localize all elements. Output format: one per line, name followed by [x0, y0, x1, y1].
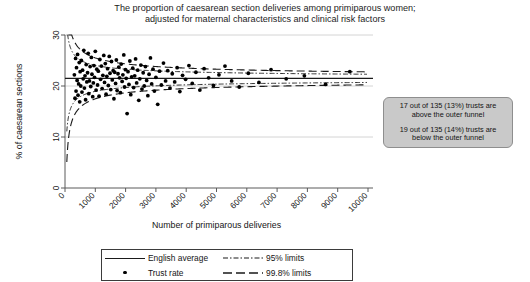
- data-point: [96, 69, 100, 73]
- data-point: [72, 73, 76, 77]
- x-tick-label-9000: 9000: [319, 190, 339, 210]
- data-point: [237, 85, 241, 89]
- data-point: [88, 65, 92, 69]
- data-point: [103, 62, 107, 66]
- data-point: [76, 93, 80, 97]
- data-point: [91, 95, 95, 99]
- data-point: [93, 49, 97, 53]
- y-axis-ticks: [61, 35, 65, 188]
- annotation-paragraph-below: 19 out of 135 (14%) trusts are below the…: [400, 126, 497, 143]
- data-point: [79, 59, 83, 63]
- legend-item-998-limits: 99.8% limits: [220, 265, 354, 280]
- data-point: [107, 55, 111, 59]
- funnel-curve-95-limits-upper: [67, 35, 367, 74]
- data-point: [324, 83, 328, 87]
- data-point: [230, 79, 234, 83]
- data-point: [132, 86, 136, 90]
- x-tick-label-2000: 2000: [107, 190, 127, 210]
- funnel-curve-99-8-limits-lower: [67, 85, 367, 162]
- data-point: [119, 62, 123, 66]
- data-point: [147, 72, 151, 76]
- x-axis-tick-labels: 0100020003000400050006000700080009000100…: [56, 190, 370, 214]
- data-point: [151, 67, 155, 71]
- trust-rate-points: [72, 48, 351, 115]
- data-point: [173, 80, 177, 84]
- data-point: [207, 76, 211, 80]
- data-point: [217, 73, 221, 77]
- annotation-above-line-1: 17 out of 135 (13%) trusts are: [400, 101, 497, 110]
- chart-title: The proportion of caesarean section deli…: [0, 3, 530, 26]
- data-point: [123, 85, 127, 89]
- data-point: [170, 72, 174, 76]
- data-point: [178, 90, 182, 94]
- data-point: [79, 84, 83, 88]
- dashed-line-icon: [220, 267, 266, 279]
- data-point: [166, 69, 170, 73]
- data-point: [106, 84, 110, 88]
- data-point: [184, 77, 188, 81]
- data-point: [93, 75, 97, 79]
- y-axis-label: % of caesarean sections: [14, 63, 24, 159]
- data-point: [133, 74, 137, 78]
- data-point: [269, 68, 273, 72]
- funnel-plot-figure: The proportion of caesarean section deli…: [0, 0, 530, 282]
- data-point: [113, 70, 117, 74]
- data-point: [96, 83, 100, 87]
- data-point: [101, 73, 105, 77]
- funnel-limit-curves: [67, 35, 367, 162]
- data-point: [136, 68, 140, 72]
- data-point: [76, 52, 80, 56]
- data-point: [145, 78, 149, 82]
- data-point: [81, 68, 85, 72]
- x-tick-label-6000: 6000: [228, 190, 248, 210]
- data-point: [141, 71, 145, 75]
- solid-line-icon: [102, 252, 148, 264]
- data-point: [127, 83, 131, 87]
- data-point: [89, 56, 93, 60]
- annotation-above-line-2: above the outer funnel: [412, 110, 485, 119]
- x-tick-label-10000: 10000: [346, 190, 370, 214]
- data-point: [92, 64, 96, 68]
- data-point: [202, 67, 206, 71]
- y-tick-label-30: 30: [51, 30, 61, 40]
- chart-title-line-2: adjusted for maternal characteristics an…: [0, 14, 530, 25]
- data-point: [118, 76, 122, 80]
- data-point: [168, 86, 172, 90]
- annotation-below-line-2: below the outer funnel: [412, 133, 484, 142]
- data-point: [99, 77, 103, 81]
- data-point: [152, 89, 156, 93]
- data-point: [87, 92, 91, 96]
- annotation-below-line-1: 19 out of 135 (14%) trusts are: [400, 125, 497, 134]
- data-point: [149, 56, 153, 60]
- data-point: [137, 98, 141, 102]
- data-point: [114, 82, 118, 86]
- data-point: [120, 80, 124, 84]
- data-point: [112, 97, 116, 101]
- data-point: [142, 84, 146, 88]
- data-point: [99, 64, 103, 68]
- data-point: [126, 70, 130, 74]
- data-point: [129, 93, 133, 97]
- data-point: [84, 98, 88, 102]
- data-point: [84, 63, 88, 67]
- legend-label-trust-rate: Trust rate: [148, 268, 184, 278]
- data-point: [159, 83, 163, 87]
- data-point: [110, 60, 114, 64]
- data-point: [75, 78, 79, 82]
- data-point: [86, 71, 90, 75]
- data-point: [154, 75, 158, 79]
- data-point: [146, 94, 150, 98]
- data-point: [124, 76, 128, 80]
- data-point: [198, 88, 202, 92]
- data-point: [119, 91, 123, 95]
- data-point: [86, 51, 90, 55]
- data-point: [134, 57, 138, 61]
- dot-marker-icon: [102, 267, 148, 279]
- y-tick-label-20: 20: [51, 81, 61, 91]
- funnel-curve-99-8-limits-upper: [68, 35, 367, 72]
- data-point: [156, 102, 160, 106]
- data-point: [83, 74, 87, 78]
- annotation-paragraph-above: 17 out of 135 (13%) trusts are above the…: [400, 102, 497, 119]
- data-point: [82, 86, 86, 90]
- data-point: [116, 72, 120, 76]
